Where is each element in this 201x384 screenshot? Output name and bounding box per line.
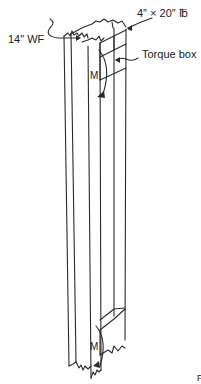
arrowhead-moment-bottom [93,361,100,368]
moment-label-bottom: M [90,342,98,352]
torque-box-label: Torque box [142,49,196,60]
torque-box-bottom [100,308,125,355]
moment-label-top: M [90,71,98,81]
plate-label: 4″ × 20″ ℔ [137,8,188,19]
wide-flange-label: 14″ WF [8,34,44,45]
arrowhead-torque [115,57,120,63]
arrowhead-moment-top [97,91,105,98]
corner-mark: F [197,374,201,383]
